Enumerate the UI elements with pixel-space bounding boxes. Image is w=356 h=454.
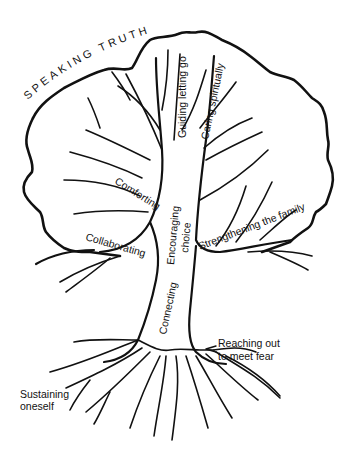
label-encouraging-2: choice (178, 222, 193, 253)
label-sustaining-1: Sustaining (20, 388, 69, 400)
label-guiding: Guiding letting go (176, 56, 188, 138)
label-strengthening: Strengthening the family (196, 200, 307, 252)
canopy-label: SPEAKING TRUTH (21, 23, 151, 102)
trunk-left (36, 58, 162, 362)
label-comforting: Comforting (113, 175, 163, 212)
tree-diagram: SPEAKING TRUTH (0, 0, 356, 454)
label-connecting: Connecting (156, 281, 179, 336)
label-reaching-2: to meet fear (218, 350, 275, 362)
label-sustaining-2: oneself (20, 400, 54, 412)
reaching-arrow (206, 346, 216, 352)
label-reaching-1: Reaching out (218, 337, 280, 349)
